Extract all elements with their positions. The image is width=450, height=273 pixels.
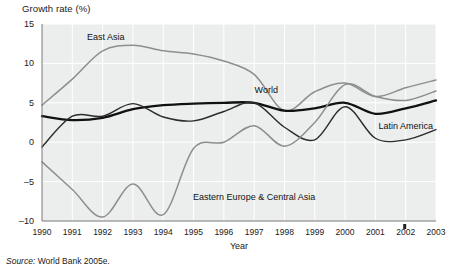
x-tick-label: 1993 [116, 227, 150, 237]
source-text: World Bank 2005e. [35, 256, 110, 266]
source-prefix: Source: [6, 256, 35, 266]
series-label-eastern-europe-central-asia: Eastern Europe & Central Asia [193, 192, 315, 202]
x-tick-label: 1994 [146, 227, 180, 237]
series-label-east-asia: East Asia [87, 32, 125, 42]
y-tick-label: –5 [4, 177, 34, 187]
x-tick-label: 1997 [237, 227, 271, 237]
x-axis-title: Year [209, 241, 269, 251]
x-tick-label: 1998 [267, 227, 301, 237]
x-tick-label: 2002 [389, 227, 423, 237]
x-tick-label: 1992 [86, 227, 120, 237]
x-tick-label: 2001 [358, 227, 392, 237]
y-axis-title: Growth rate (%) [22, 3, 91, 14]
series-label-latin-america: Latin America [378, 121, 433, 131]
y-tick-label: 0 [4, 137, 34, 147]
x-tick-label: 1991 [55, 227, 89, 237]
y-tick-label: 10 [4, 58, 34, 68]
series-label-world: World [255, 85, 278, 95]
x-tick-label: 2003 [419, 227, 450, 237]
y-tick-label: –10 [4, 216, 34, 226]
source-note: Source: World Bank 2005e. [6, 256, 110, 266]
x-tick-label: 2000 [328, 227, 362, 237]
x-tick-label: 1990 [25, 227, 59, 237]
y-tick-label: 5 [4, 98, 34, 108]
x-tick-label: 1999 [298, 227, 332, 237]
y-tick-label: 15 [4, 19, 34, 29]
x-tick-label: 1996 [207, 227, 241, 237]
x-tick-label: 1995 [177, 227, 211, 237]
